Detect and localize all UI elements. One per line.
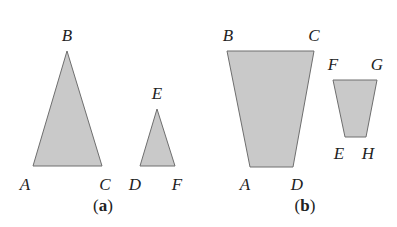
triangle-abc bbox=[33, 51, 102, 166]
panel-b-caption: (b) bbox=[295, 196, 316, 215]
vertex-label-e: E bbox=[333, 144, 345, 163]
caption-letter: b bbox=[300, 196, 309, 215]
panel-a-caption: (a) bbox=[93, 196, 113, 215]
panel-a: A B C D E F (a) bbox=[19, 26, 183, 215]
vertex-label-f: F bbox=[327, 55, 339, 74]
vertex-label-b: B bbox=[62, 26, 73, 45]
vertex-label-d: D bbox=[290, 175, 304, 194]
caption-close-paren: ) bbox=[107, 196, 113, 215]
panel-b: B C A D F G E H (b) bbox=[223, 26, 383, 215]
vertex-label-a: A bbox=[239, 175, 251, 194]
vertex-label-c: C bbox=[99, 175, 111, 194]
vertex-label-g: G bbox=[371, 55, 383, 74]
vertex-label-a: A bbox=[19, 175, 31, 194]
trapezoid-efgh bbox=[333, 80, 377, 137]
vertex-label-b: B bbox=[223, 26, 234, 45]
vertex-label-c: C bbox=[308, 26, 320, 45]
vertex-label-e: E bbox=[151, 84, 163, 103]
trapezoid-abcd bbox=[227, 51, 314, 167]
caption-close-paren: ) bbox=[310, 196, 316, 215]
vertex-label-d: D bbox=[128, 175, 142, 194]
vertex-label-f: F bbox=[171, 175, 183, 194]
vertex-label-h: H bbox=[361, 144, 376, 163]
similar-figures-diagram: A B C D E F (a) B C A D F G E H (b) bbox=[0, 0, 397, 227]
triangle-def bbox=[140, 109, 175, 166]
